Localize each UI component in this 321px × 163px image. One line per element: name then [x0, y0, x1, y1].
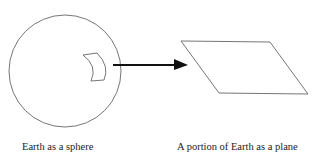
surface-patch — [83, 53, 106, 81]
sphere-label: Earth as a sphere — [22, 141, 93, 152]
plane-parallelogram — [181, 41, 308, 94]
arrow-head — [174, 59, 188, 70]
plane-label: A portion of Earth as a plane — [177, 141, 298, 152]
earth-sphere — [9, 15, 121, 127]
diagram-canvas — [0, 0, 321, 163]
